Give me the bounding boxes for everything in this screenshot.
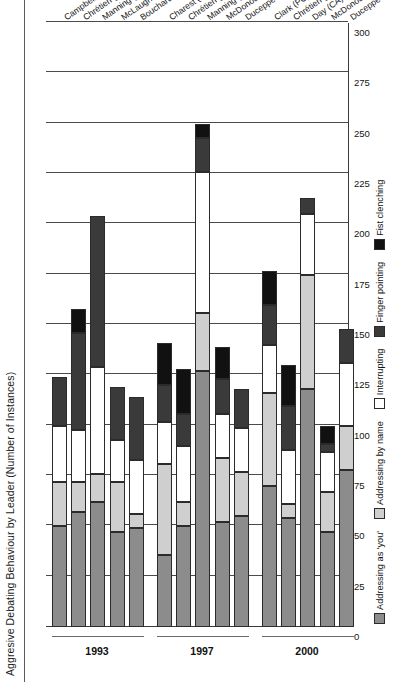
bar-row: [234, 23, 249, 627]
bar-segment: [300, 198, 315, 214]
bar-row: [339, 23, 354, 627]
bar-segment: [339, 470, 354, 627]
value-axis-tick-label: 100: [354, 430, 370, 441]
bar-segment: [129, 398, 144, 460]
bar-segment: [320, 444, 335, 452]
bar-segment: [281, 518, 296, 627]
bar-segment: [176, 526, 191, 627]
bar-segment: [195, 172, 210, 313]
bar-segment: [157, 422, 172, 464]
bar-row: [195, 23, 210, 627]
bar-segment: [339, 363, 354, 425]
chart-title: Aggresive Debating Behaviour by Leader (…: [4, 372, 16, 676]
bar-row: [176, 23, 191, 627]
rotated-figure-wrapper: Aggresive Debating Behaviour by Leader (…: [0, 0, 410, 682]
group-label: 1997: [182, 645, 222, 657]
bar-segment: [234, 428, 249, 472]
bar-segment: [215, 522, 230, 627]
bar-segment: [234, 472, 249, 516]
legend-label: Fist clenching: [375, 180, 385, 236]
title-divider: [24, 0, 25, 682]
bar-segment: [52, 526, 67, 627]
legend: Addressing as 'you'Addressing by nameInt…: [374, 173, 385, 624]
bar-segment: [176, 414, 191, 446]
legend-label: Interrupting: [375, 349, 385, 395]
legend-label: Addressing as 'you': [375, 531, 385, 610]
bar-segment: [262, 393, 277, 486]
figure: Aggresive Debating Behaviour by Leader (…: [0, 0, 410, 682]
bar-segment: [157, 385, 172, 421]
bar-row: [90, 23, 105, 627]
bar-segment: [90, 474, 105, 502]
bar-segment: [339, 426, 354, 470]
bar-segment: [215, 379, 230, 413]
bar-segment: [110, 387, 125, 439]
bar-row: [52, 23, 67, 627]
bar-segment: [90, 216, 105, 367]
value-axis-tick-label: 0: [354, 631, 359, 642]
bar-segment: [262, 345, 277, 393]
group-tick: [157, 636, 249, 637]
bar-segment: [281, 365, 296, 405]
bar-segment: [52, 482, 67, 526]
bar-segment: [234, 389, 249, 427]
bar-segment: [215, 347, 230, 379]
bar-row: [157, 23, 172, 627]
bar-row: [129, 23, 144, 627]
bar-segment: [195, 313, 210, 371]
bar-segment: [90, 502, 105, 627]
bar-segment: [320, 426, 335, 444]
bar-segment: [195, 371, 210, 627]
bar-segment: [129, 460, 144, 514]
value-axis-tick-label: 25: [354, 581, 365, 592]
legend-swatch-icon: [374, 326, 385, 337]
value-axis-tick-label: 125: [354, 379, 370, 390]
bar-segment: [215, 458, 230, 522]
value-axis-tick-label: 275: [354, 77, 370, 88]
bar-segment: [110, 440, 125, 482]
bar-row: [215, 23, 230, 627]
bar-segment: [281, 450, 296, 504]
bar-segment: [129, 528, 144, 627]
legend-item[interactable]: Interrupting: [374, 349, 385, 409]
bar-row: [300, 23, 315, 627]
legend-item[interactable]: Addressing as 'you': [374, 531, 385, 624]
bar-segment: [110, 482, 125, 532]
bar-segment: [71, 309, 86, 333]
group-label: 1993: [77, 645, 117, 657]
bar-row: [281, 23, 296, 627]
bar-segment: [262, 486, 277, 627]
value-axis-tick-label: 175: [354, 279, 370, 290]
value-axis-tick-label: 225: [354, 178, 370, 189]
bar-segment: [176, 369, 191, 413]
bar-segment: [234, 516, 249, 627]
legend-swatch-icon: [374, 613, 385, 624]
bar-segment: [262, 305, 277, 345]
bar-segment: [90, 367, 105, 474]
gridline: [46, 21, 348, 22]
group-label: 2000: [287, 645, 327, 657]
bar-segment: [129, 514, 144, 528]
bar-segment: [215, 414, 230, 458]
legend-item[interactable]: Fist clenching: [374, 180, 385, 250]
legend-label: Addressing by name: [375, 421, 385, 505]
bar-segment: [176, 446, 191, 502]
bar-segment: [71, 512, 86, 627]
group-tick: [52, 636, 144, 637]
bar-segment: [320, 452, 335, 492]
bar-segment: [157, 555, 172, 627]
bar-row: [71, 23, 86, 627]
legend-item[interactable]: Addressing by name: [374, 421, 385, 519]
legend-swatch-icon: [374, 508, 385, 519]
group-tick: [262, 636, 354, 637]
legend-item[interactable]: Finger pointing: [374, 262, 385, 337]
legend-swatch-icon: [374, 398, 385, 409]
bar-row: [262, 23, 277, 627]
bar-segment: [300, 275, 315, 390]
bar-segment: [320, 532, 335, 627]
bar-segment: [52, 426, 67, 482]
value-axis-tick-label: 150: [354, 329, 370, 340]
bar-row: [110, 23, 125, 627]
value-axis-tick-label: 200: [354, 228, 370, 239]
bar-segment: [71, 430, 86, 482]
